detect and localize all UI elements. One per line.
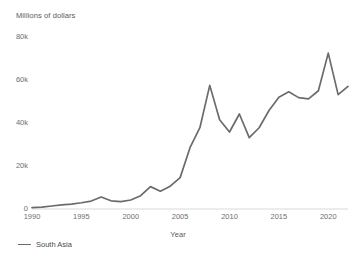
legend-item-label: South Asia [36, 240, 72, 249]
series-line [32, 53, 348, 208]
line-chart: Millions of dollars 020k40k60k80k1990199… [0, 0, 356, 263]
plot-area [0, 0, 356, 263]
legend-line-swatch [18, 244, 31, 245]
chart-legend: South Asia [18, 240, 72, 249]
series-layer [32, 53, 348, 208]
x-axis-title: Year [0, 230, 356, 239]
